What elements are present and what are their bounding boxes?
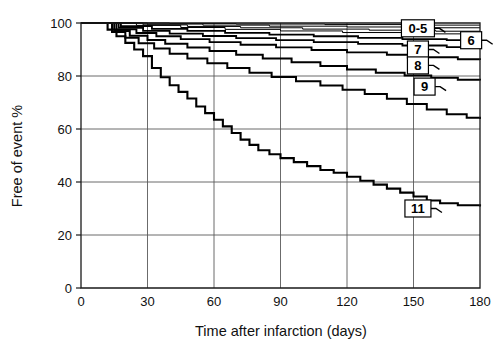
- callout-leader-line-6: [482, 40, 493, 44]
- x-tick-label: 0: [77, 294, 84, 309]
- y-tick-label: 40: [58, 175, 72, 190]
- callout-label-6: 6: [468, 33, 475, 48]
- callout-leader-line-9: [435, 87, 446, 91]
- callout-label-0-5: 0-5: [409, 21, 428, 36]
- x-tick-label: 60: [207, 294, 221, 309]
- figure-container: 0204060801000306090120150180 0-5678911 T…: [0, 0, 500, 352]
- callout-leader-line-11: [431, 209, 442, 213]
- y-tick-label: 100: [50, 16, 72, 31]
- y-tick-label: 80: [58, 69, 72, 84]
- callout-label-8: 8: [414, 58, 421, 73]
- figure-caption: [22, 338, 222, 350]
- callout-leader-line-7: [428, 50, 439, 54]
- x-tick-label: 150: [403, 294, 425, 309]
- x-axis-title: Time after infarction (days): [195, 323, 367, 339]
- x-tick-label: 120: [336, 294, 358, 309]
- callout-label-7: 7: [414, 42, 421, 57]
- y-tick-label: 0: [65, 281, 72, 296]
- callout-label-11: 11: [411, 201, 425, 216]
- kaplan-meier-chart: 0204060801000306090120150180 0-5678911 T…: [0, 0, 500, 352]
- y-tick-label: 60: [58, 122, 72, 137]
- x-tick-label: 30: [140, 294, 154, 309]
- x-tick-label: 180: [469, 294, 491, 309]
- callout-label-9: 9: [421, 79, 428, 94]
- y-tick-label: 20: [58, 228, 72, 243]
- x-tick-label: 90: [273, 294, 287, 309]
- callout-leader-line-8: [428, 65, 439, 69]
- y-axis-title: Free of event %: [9, 105, 25, 207]
